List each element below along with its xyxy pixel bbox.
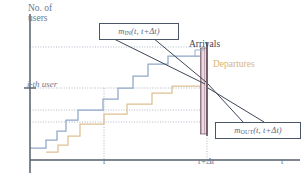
y-tick-label-text: i-th user	[27, 79, 57, 89]
y-axis-label-line2: users	[28, 14, 52, 24]
x-tick-label-t-text: t	[103, 156, 106, 166]
y-axis-label-line1: No. of	[28, 3, 52, 13]
callout-m-in: mIN(t, t+Δt)	[99, 23, 179, 40]
departures-curve	[46, 86, 207, 152]
arrivals-annotation-text: Arrivals	[189, 39, 220, 49]
x-tick-label-t: t	[103, 157, 106, 166]
x-tick-label-t-plus-dt-text: t+Δt	[198, 156, 214, 166]
callout-m-out-args: (t, t+Δt)	[253, 125, 282, 135]
queue-length-band	[201, 42, 208, 136]
x-tick-label-t-plus-dt: t+Δt	[198, 157, 214, 166]
y-axis-label: No. of users	[28, 4, 52, 24]
x-axis-label: t	[281, 157, 284, 166]
arrivals-annotation: Arrivals	[189, 40, 220, 50]
arrivals-curve	[30, 56, 207, 148]
leader-lines-out	[208, 84, 264, 122]
departures-annotation-text: Departures	[213, 59, 255, 69]
x-axis-label-text: t	[281, 156, 284, 166]
callout-m-in-args: (t, t+Δt)	[131, 26, 160, 36]
figure-canvas: No. of users i-th user t t+Δt t Arrivals…	[0, 0, 308, 184]
callout-m-out-formula: mOUT(t, t+Δt)	[234, 125, 282, 135]
callout-m-in-formula: mIN(t, t+Δt)	[118, 26, 159, 36]
y-tick-label-ith-user: i-th user	[27, 80, 57, 89]
departures-annotation: Departures	[213, 60, 255, 70]
callout-m-out: mOUT(t, t+Δt)	[215, 122, 301, 139]
callout-m-out-subscript: OUT	[240, 129, 253, 136]
